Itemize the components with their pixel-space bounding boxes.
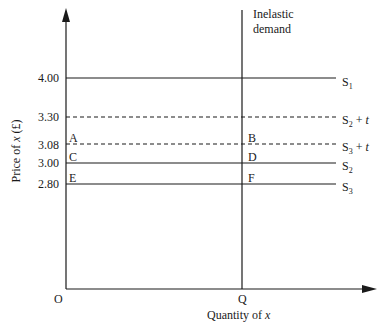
origin-label: O xyxy=(54,293,63,305)
tax-incidence-diagram: 4.00 3.30 3.08 3.00 2.80 Price of x (£) … xyxy=(0,0,384,333)
y-tick-3-00: 3.00 xyxy=(19,157,59,169)
y-axis-title: Price of x (£) xyxy=(10,106,22,196)
y-tick-4-00: 4.00 xyxy=(19,72,59,84)
y-tick-3-30: 3.30 xyxy=(19,111,59,123)
curve-label-s3: S3 xyxy=(342,181,353,195)
curve-label-s2-plus-t: S2 + t xyxy=(342,114,369,128)
curve-label-s1-sub: 1 xyxy=(349,82,353,91)
y-axis-title-prefix: Price of xyxy=(9,142,23,183)
curve-label-s3-sub: 3 xyxy=(349,187,353,196)
point-label-f: F xyxy=(248,172,255,184)
curve-label-s2t-sub: 2 xyxy=(349,120,353,129)
quantity-q-label: Q xyxy=(238,293,247,305)
point-label-b: B xyxy=(248,132,256,144)
x-axis-title: Quantity of x xyxy=(207,309,270,321)
curve-label-s2-base: S xyxy=(342,159,349,173)
point-label-e: E xyxy=(69,172,76,184)
x-axis-arrow-icon xyxy=(362,285,377,293)
y-tick-2-80: 2.80 xyxy=(19,178,59,190)
curve-label-s1-base: S xyxy=(342,75,349,89)
demand-label-line1: Inelastic xyxy=(253,8,294,20)
x-axis-title-variable: x xyxy=(265,308,270,322)
curve-label-s2t-plus: + xyxy=(353,113,366,127)
y-axis-title-suffix: (£) xyxy=(9,120,23,137)
point-label-a: A xyxy=(69,132,78,144)
curve-label-s2-sub: 2 xyxy=(349,166,353,175)
y-axis-arrow-icon xyxy=(62,8,70,22)
curve-label-s3-plus-t: S3 + t xyxy=(342,141,369,155)
curve-label-s3t-plus: + xyxy=(353,140,366,154)
x-axis-title-prefix: Quantity of xyxy=(207,308,265,322)
point-label-c: C xyxy=(69,151,77,163)
curve-label-s1: S1 xyxy=(342,76,353,90)
curve-label-s2t-base: S xyxy=(342,113,349,127)
y-axis-title-variable: x xyxy=(9,137,23,142)
curve-label-s3-base: S xyxy=(342,180,349,194)
curve-label-s3t-sub: 3 xyxy=(349,147,353,156)
curve-label-s2t-var: t xyxy=(365,113,368,127)
curve-label-s2: S2 xyxy=(342,160,353,174)
y-tick-3-08: 3.08 xyxy=(19,139,59,151)
point-label-d: D xyxy=(248,151,257,163)
curve-label-s3t-var: t xyxy=(365,140,368,154)
curve-label-s3t-base: S xyxy=(342,140,349,154)
demand-label-line2: demand xyxy=(253,23,291,35)
